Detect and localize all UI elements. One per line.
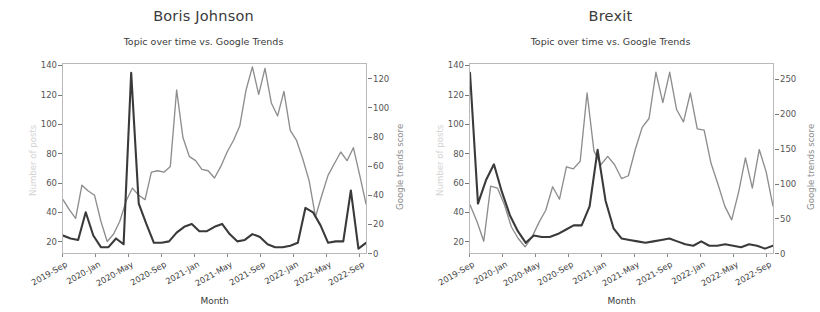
y2-tick-label: 0 [780,250,820,259]
y-tick-label: 40 [17,208,57,217]
x-tick-mark [293,254,294,257]
panel-suptitle: Boris Johnson [0,8,407,24]
x-tick-mark [326,254,327,257]
y-tick-label: 20 [424,238,464,247]
y-tick-label: 60 [424,179,464,188]
y-tick-label: 100 [424,120,464,129]
x-tick-mark [161,254,162,257]
x-tick-mark [502,254,503,257]
x-tick-mark [634,254,635,257]
x-tick-mark [667,254,668,257]
y2-axis-label: Google trends score [806,124,816,210]
y-tick-mark [465,212,469,213]
x-tick-mark [700,254,701,257]
y2-tick-mark [775,79,779,80]
x-tick-mark [535,254,536,257]
y2-tick-mark [368,224,372,225]
y2-tick-label: 50 [780,215,820,224]
y2-tick-mark [775,253,779,254]
y2-tick-label: 200 [780,110,820,119]
panel-axes-title: Topic over time vs. Google Trends [407,36,814,47]
y-tick-label: 120 [424,91,464,100]
series-google-trends-score [63,67,366,242]
series-number-of-posts [470,73,773,249]
y-tick-label: 120 [17,91,57,100]
y-tick-mark [465,153,469,154]
x-tick-mark [260,254,261,257]
y2-tick-mark [368,195,372,196]
y-tick-mark [58,65,62,66]
y2-tick-mark [368,78,372,79]
y-tick-label: 60 [17,179,57,188]
plot-area [62,63,367,254]
x-tick-mark [62,254,63,257]
x-tick-mark [95,254,96,257]
x-tick-mark [194,254,195,257]
y2-tick-mark [368,137,372,138]
y2-tick-mark [368,166,372,167]
y-tick-label: 80 [17,150,57,159]
x-tick-mark [733,254,734,257]
y-tick-mark [465,65,469,66]
y-tick-label: 100 [17,120,57,129]
y2-tick-mark [775,184,779,185]
series-number-of-posts [63,73,366,249]
y-tick-mark [465,183,469,184]
plot-svg [63,64,366,253]
y-tick-label: 140 [17,61,57,70]
y-tick-mark [58,95,62,96]
y-tick-mark [58,124,62,125]
x-tick-mark [359,254,360,257]
plot-area [469,63,774,254]
x-tick-mark [568,254,569,257]
x-axis-label: Month [62,296,367,306]
x-tick-mark [469,254,470,257]
x-tick-mark [128,254,129,257]
panel-boris-johnson: Boris Johnson Topic over time vs. Google… [0,0,407,312]
y2-tick-mark [775,218,779,219]
y2-tick-mark [368,253,372,254]
series-google-trends-score [470,72,773,247]
y2-tick-mark [775,149,779,150]
y-tick-mark [465,124,469,125]
x-axis-label: Month [469,296,774,306]
y-tick-mark [58,241,62,242]
panel-suptitle: Brexit [407,8,814,24]
y2-tick-label: 250 [780,75,820,84]
plot-svg [470,64,773,253]
panel-axes-title: Topic over time vs. Google Trends [0,36,407,47]
x-tick-mark [766,254,767,257]
x-tick-mark [601,254,602,257]
y-tick-mark [58,183,62,184]
x-tick-mark [227,254,228,257]
y-tick-mark [58,212,62,213]
y-tick-label: 80 [424,150,464,159]
y-tick-mark [465,241,469,242]
y-tick-label: 20 [17,238,57,247]
y-tick-mark [58,153,62,154]
y2-tick-label: 100 [780,180,820,189]
y2-tick-mark [775,114,779,115]
y2-tick-label: 150 [780,145,820,154]
y-tick-label: 40 [424,208,464,217]
y-tick-label: 140 [424,61,464,70]
y2-tick-mark [368,107,372,108]
y-tick-mark [465,95,469,96]
panel-brexit: Brexit Topic over time vs. Google Trends… [407,0,814,312]
